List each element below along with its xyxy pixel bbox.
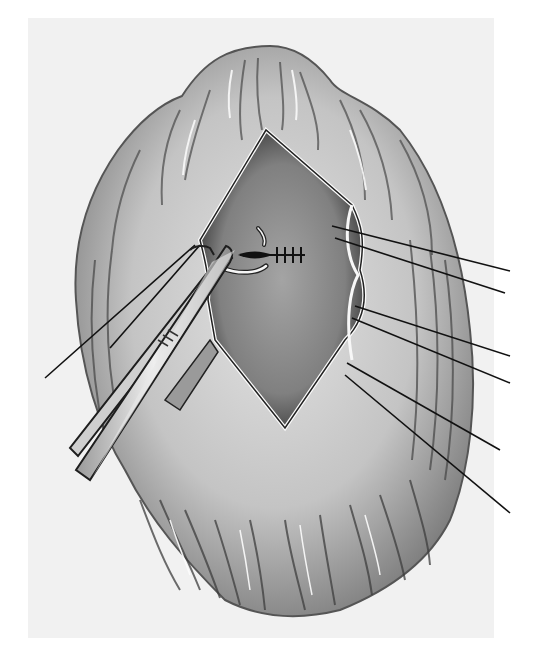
surgical-illustration (0, 0, 540, 652)
illustration-frame (0, 0, 540, 652)
